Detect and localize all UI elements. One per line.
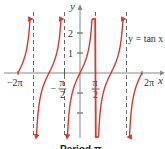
x-tick-label-denominator: 2 [60,89,65,100]
axes [4,4,165,138]
tangent-branch [129,73,142,137]
x-tick-label-sign: − [50,83,56,94]
y-axis-label: y [69,0,75,12]
caption: Period π [60,144,102,149]
y-tick-label: 2 [68,28,73,39]
tangent-branch [18,19,31,73]
x-axis-label: x [157,74,163,86]
x-tick-label: −2π [7,77,23,88]
function-label: y = tan x [128,33,163,44]
x-tick-label-numerator: π [59,77,64,88]
x-tick-label: 2π [144,77,154,88]
tangent-graph: 21−2π−π2π22π y x y = tan x Period π [0,0,165,149]
y-tick-label: 1 [68,48,73,59]
y-axis-arrow [78,4,83,10]
tangent-branch [36,19,62,137]
